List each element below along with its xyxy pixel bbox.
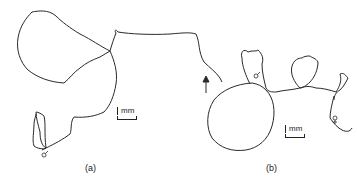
panel-a-lower-loop — [42, 51, 117, 150]
panel-b-big-loop — [208, 83, 274, 151]
panel-a-upper-loop — [17, 11, 110, 83]
panel-b-right-tangle — [316, 73, 348, 100]
panel-label-a: (a) — [85, 163, 96, 173]
panel-b-middle-trail — [276, 87, 316, 93]
panel-b-middle-flower — [291, 56, 318, 88]
direction-arrow-icon — [203, 76, 209, 93]
panel-a-right-trail — [110, 30, 222, 82]
scale-bar-b: mm — [285, 124, 309, 140]
scale-bracket — [117, 116, 137, 120]
scale-tick — [117, 107, 118, 115]
panel-a-small-loop — [33, 112, 46, 149]
scale-bar-a: mm — [117, 106, 141, 122]
trail-diagram — [0, 0, 357, 182]
panel-b-left-flower — [241, 50, 276, 92]
scale-bracket — [285, 134, 305, 138]
panel-b-lower-trail — [330, 96, 352, 131]
scale-tick — [285, 125, 286, 133]
male-symbol-icon — [42, 151, 48, 157]
panel-label-b: (b) — [266, 163, 277, 173]
male-symbol-icon — [254, 72, 260, 78]
scale-label: mm — [121, 106, 134, 115]
scale-label: mm — [289, 124, 302, 133]
